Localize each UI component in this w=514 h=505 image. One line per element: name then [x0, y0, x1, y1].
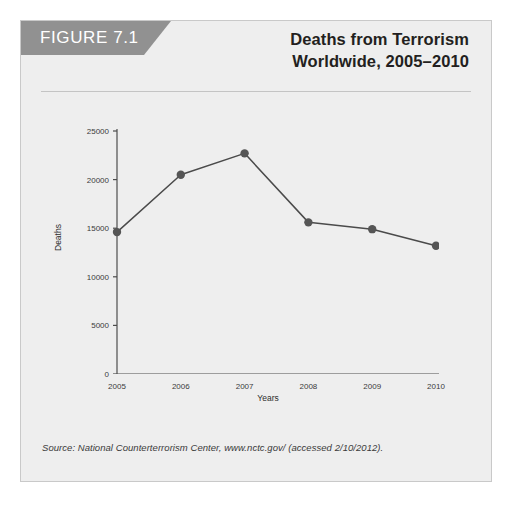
y-axis-label: Deaths: [53, 224, 63, 251]
axis-lines: [117, 129, 439, 374]
figure-title-line-2: Worldwide, 2005–2010: [290, 51, 469, 73]
data-point-2008: [304, 218, 312, 226]
y-axis-tick-label: 15000: [87, 224, 109, 233]
page-title: Deaths from Terrorism Worldwide, 2005–20…: [290, 29, 469, 73]
y-axis-tick-label: 10000: [87, 272, 109, 281]
y-axis-tick-label: 20000: [87, 175, 109, 184]
x-axis-tick-label: 2009: [363, 382, 381, 391]
data-point-2007: [240, 149, 248, 157]
figure-panel: FIGURE 7.1 Deaths from Terrorism Worldwi…: [20, 20, 492, 482]
data-point-2005: [113, 228, 121, 236]
plot-frame: 0500010000150002000025000 20052006200720…: [97, 129, 439, 374]
x-axis-tick-label: 2005: [108, 382, 126, 391]
y-axis-tick-label: 0: [105, 370, 109, 379]
y-axis-tick-label: 5000: [91, 321, 109, 330]
title-divider: [41, 91, 471, 92]
chart-area: Deaths Years 0500010000150002000025000 2…: [21, 101, 491, 431]
x-axis-tick-label: 2007: [236, 382, 254, 391]
y-axis-tick-label: 25000: [87, 127, 109, 136]
figure-title-line-1: Deaths from Terrorism: [290, 29, 469, 51]
line-chart-svg: [97, 129, 439, 374]
data-point-2006: [177, 171, 185, 179]
source-note: Source: National Counterterrorism Center…: [42, 442, 383, 453]
data-point-markers: [113, 149, 439, 250]
figure-number-label: FIGURE 7.1: [40, 28, 139, 48]
x-axis-tick-label: 2010: [427, 382, 445, 391]
x-axis-label: Years: [97, 393, 439, 403]
x-axis-tick-label: 2008: [299, 382, 317, 391]
data-point-2009: [368, 225, 376, 233]
data-line: [117, 153, 436, 245]
x-axis-tick-label: 2006: [172, 382, 190, 391]
data-point-2010: [432, 242, 439, 250]
